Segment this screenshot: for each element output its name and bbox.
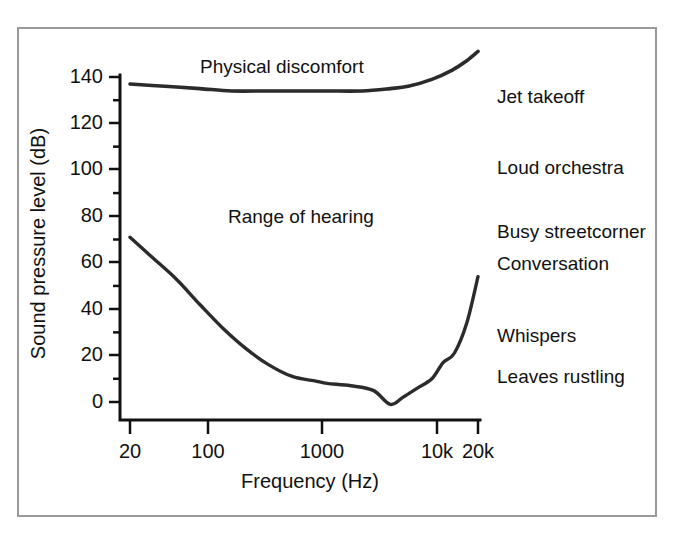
annotation-leaves-rustling: Leaves rustling <box>497 366 625 388</box>
y-tick-label-40: 40 <box>0 298 103 318</box>
axis-ticks <box>109 77 478 434</box>
annotation-whispers: Whispers <box>497 325 576 347</box>
x-tick-label-100: 100 <box>168 441 248 461</box>
annotation-conversation: Conversation <box>497 253 609 275</box>
annotation-physical-discomfort: Physical discomfort <box>200 56 364 78</box>
y-axis-title: Sound pressure level (dB) <box>27 114 50 374</box>
y-tick-label-120: 120 <box>0 112 103 132</box>
y-tick-label-60: 60 <box>0 251 103 271</box>
axes-lines <box>120 75 480 420</box>
y-tick-label-0: 0 <box>0 391 103 411</box>
annotation-range-of-hearing: Range of hearing <box>228 206 374 228</box>
annotation-jet-takeoff: Jet takeoff <box>497 86 584 108</box>
y-tick-label-20: 20 <box>0 344 103 364</box>
y-tick-label-80: 80 <box>0 205 103 225</box>
annotation-loud-orchestra: Loud orchestra <box>497 157 624 179</box>
annotation-busy-streetcorner: Busy streetcorner <box>497 221 646 243</box>
x-tick-label-1000: 1000 <box>282 441 362 461</box>
figure-root: 140120100806040200 20100100010k20k Sound… <box>0 0 676 533</box>
x-axis-title: Frequency (Hz) <box>185 470 435 493</box>
y-tick-label-100: 100 <box>0 158 103 178</box>
y-tick-label-140: 140 <box>0 66 103 86</box>
x-tick-label-20: 20 <box>90 441 170 461</box>
x-tick-label-20k: 20k <box>438 441 518 461</box>
